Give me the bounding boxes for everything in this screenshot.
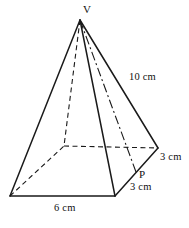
lateral-edge-apex-to-right: [80, 20, 158, 148]
slant-height-group: [80, 20, 136, 172]
apex-label-v: V: [83, 4, 91, 15]
lateral-edge-apex-to-front-left: [10, 20, 80, 196]
half-edge-lower-length-label: 3 cm: [130, 182, 152, 193]
dash-dot-line-apex-to-p: [80, 20, 136, 172]
hidden-base-edge-back-to-right: [64, 146, 158, 148]
midpoint-label-p: P: [139, 169, 145, 180]
hidden-base-edge-front-left-to-back: [10, 146, 64, 196]
slant-edge-length-label: 10 cm: [129, 72, 156, 83]
visible-edges-group: [10, 20, 158, 196]
base-edge-length-label: 6 cm: [54, 203, 76, 214]
hidden-edges-group: [10, 20, 158, 196]
pyramid-drawing: [0, 0, 189, 228]
pyramid-figure: V 10 cm 3 cm P 3 cm 6 cm: [0, 0, 189, 228]
lateral-edge-apex-to-front-right: [80, 20, 115, 196]
half-edge-upper-length-label: 3 cm: [160, 152, 182, 163]
